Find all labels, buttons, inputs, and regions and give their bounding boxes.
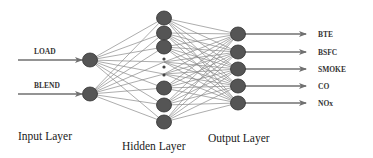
- ellipsis-dot: [162, 65, 165, 68]
- output-layer-label: Output Layer: [208, 132, 270, 145]
- hidden-node: [157, 11, 172, 25]
- hidden-node: [157, 26, 172, 40]
- output-node: [231, 96, 246, 110]
- input-label-blend: BLEND: [34, 81, 60, 90]
- input-node: [83, 53, 98, 67]
- output-label-smoke: SMOKE: [318, 65, 346, 74]
- edge: [164, 86, 238, 122]
- output-label-bsfc: BSFC: [318, 48, 337, 57]
- output-node: [231, 27, 246, 41]
- edge: [164, 69, 238, 122]
- hidden-node: [157, 81, 172, 95]
- neural-network-diagram: LOADBLENDBTEBSFCSMOKECONOx Input Layer H…: [0, 0, 373, 158]
- output-label-co: CO: [318, 82, 329, 91]
- ellipsis-dot: [162, 73, 165, 76]
- edge: [164, 52, 238, 122]
- input-node: [83, 87, 98, 101]
- hidden-node: [157, 40, 172, 54]
- output-node: [231, 79, 246, 93]
- edge: [90, 94, 164, 105]
- output-label-nox: NOx: [318, 99, 333, 108]
- edge: [90, 60, 164, 62]
- hidden-node: [157, 98, 172, 112]
- output-node: [231, 45, 246, 59]
- edge: [90, 33, 164, 94]
- hidden-node: [157, 115, 172, 129]
- ellipsis-dot: [162, 57, 165, 60]
- edge: [164, 103, 238, 122]
- input-layer-label: Input Layer: [18, 130, 72, 143]
- output-label-bte: BTE: [318, 30, 333, 39]
- output-node: [231, 62, 246, 76]
- input-label-load: LOAD: [34, 47, 56, 56]
- hidden-layer-label: Hidden Layer: [122, 140, 186, 153]
- edge: [164, 33, 238, 34]
